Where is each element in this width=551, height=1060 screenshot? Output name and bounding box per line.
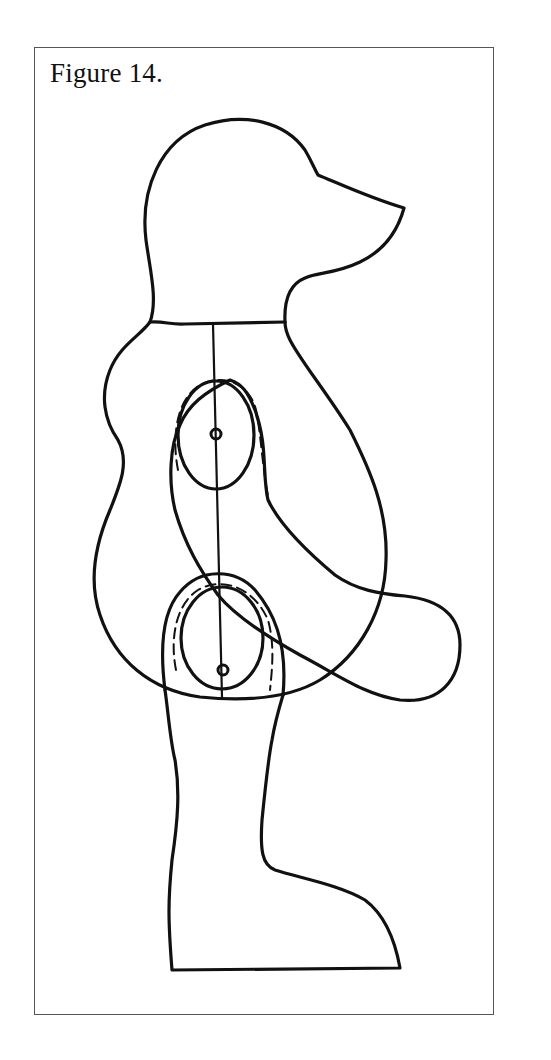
bird-pattern-drawing [0,0,551,1060]
upper-pivot [175,380,270,505]
lower-pivot-point-icon [218,665,228,675]
body-outline [94,322,386,699]
head-outline [145,119,404,324]
leg-outline [165,690,400,970]
